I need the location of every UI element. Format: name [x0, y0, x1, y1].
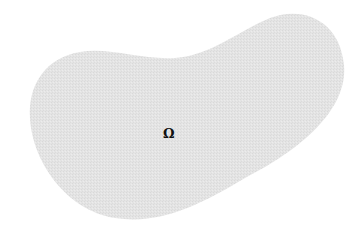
omega-region	[30, 14, 344, 220]
diagram-canvas: Ω	[0, 0, 363, 227]
domain-shape	[0, 0, 363, 227]
domain-label-omega: Ω	[163, 127, 175, 140]
